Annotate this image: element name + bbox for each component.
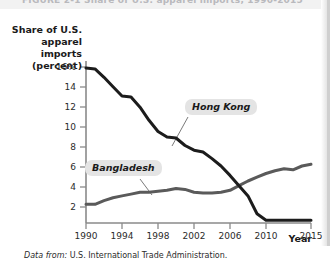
x-tick-label-2006: 2006 — [215, 231, 245, 241]
y-tick-label-2: 2 — [44, 202, 76, 212]
y-tick-label-10: 10 — [44, 122, 76, 132]
y-tick-label-14: 14 — [44, 82, 76, 92]
y-tick-label-8: 8 — [44, 142, 76, 152]
source-note: Data from: U.S. International Trade Admi… — [24, 251, 227, 260]
x-tick-label-1990: 1990 — [71, 231, 101, 241]
y-tick-label-6: 6 — [44, 162, 76, 172]
source-note-text: U.S. International Trade Administration. — [70, 251, 228, 260]
y-tick-label-16: 16% — [44, 62, 76, 72]
cutoff-figure-title-text: FIGURE 2-1 Share of U.S. apparel imports… — [22, 0, 330, 5]
x-tick-label-2002: 2002 — [179, 231, 209, 241]
y-axis-title-line-1: Share of U.S. — [6, 24, 82, 36]
x-tick-label-1994: 1994 — [107, 231, 137, 241]
x-tick-label-1998: 1998 — [143, 231, 173, 241]
x-axis-ticks — [86, 223, 311, 229]
y-axis-ticks — [80, 67, 86, 207]
x-tick-label-2010: 2010 — [251, 231, 281, 241]
cutoff-figure-title: FIGURE 2-1 Share of U.S. apparel imports… — [0, 0, 330, 9]
y-axis-title-line-2: apparel imports — [6, 36, 82, 60]
plot-area: Share of U.S. apparel imports (percent) … — [0, 9, 321, 246]
source-note-prefix: Data from: — [24, 251, 67, 260]
x-tick-label-2015: 2015 — [296, 231, 326, 241]
y-tick-label-12: 12 — [44, 102, 76, 112]
series-label-bangladesh: Bangladesh — [85, 160, 162, 176]
figure-container: FIGURE 2-1 Share of U.S. apparel imports… — [0, 0, 330, 270]
y-tick-label-4: 4 — [44, 182, 76, 192]
series-label-hong-kong: Hong Kong — [185, 99, 257, 115]
